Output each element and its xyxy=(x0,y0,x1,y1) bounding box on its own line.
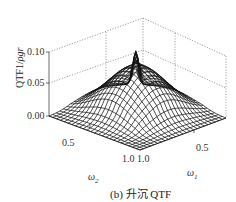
mesh-line xyxy=(117,53,208,125)
omega2-axis-label: ω2 xyxy=(88,172,99,186)
z-tick-0.00: 0.00 xyxy=(27,111,45,121)
center-ticks-1.0: 1.0 1.0 xyxy=(122,154,150,164)
z-axis-label-text: QTF1/ xyxy=(14,61,25,88)
omega1-axis-label: ω1 xyxy=(187,168,198,182)
omega2-symbol: ω xyxy=(88,171,95,182)
omega2-tick-0.5: 0.5 xyxy=(62,138,75,148)
figure-caption: (b) 升沉 QTF xyxy=(110,185,171,201)
mesh-line xyxy=(71,99,162,142)
surface-plot xyxy=(0,0,236,202)
omega1-subscript: 1 xyxy=(194,173,198,181)
z-axis-label-italic: ρgr xyxy=(14,48,25,62)
surface-mesh xyxy=(49,51,226,150)
z-tick-0.10: 0.10 xyxy=(27,47,45,57)
omega2-subscript: 2 xyxy=(95,177,99,185)
z-axis-label: QTF1/ρgr xyxy=(14,48,25,88)
omega1-symbol: ω xyxy=(187,167,194,178)
z-tick-0.05: 0.05 xyxy=(27,78,45,88)
omega1-tick-0.5: 0.5 xyxy=(196,143,209,153)
